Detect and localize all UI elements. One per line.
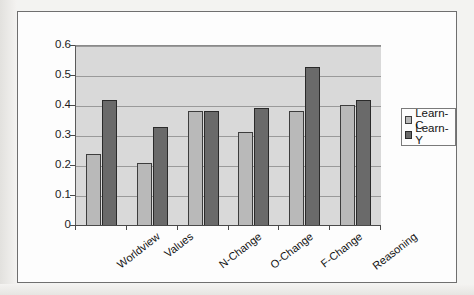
- bar-group: [86, 46, 117, 226]
- y-axis-tick-mark: [70, 135, 75, 136]
- bar-learn-c-f-change: [289, 111, 304, 227]
- gridline: [76, 196, 381, 197]
- y-axis-tick-label: 0.1: [37, 189, 71, 201]
- x-axis-tick-mark: [228, 226, 229, 230]
- gridline: [76, 106, 381, 107]
- y-axis-tick-mark: [70, 195, 75, 196]
- x-axis-tick-mark: [177, 226, 178, 230]
- x-axis-tick-label: O-Change: [268, 230, 315, 271]
- y-axis-tick-mark: [70, 165, 75, 166]
- bar-learn-c-n-change: [188, 111, 203, 227]
- y-axis-tick-label: 0.6: [37, 39, 71, 51]
- scan-edge-shading-left: [0, 0, 17, 295]
- legend-label: Learn-Y: [415, 123, 451, 146]
- bar-learn-y-worldview: [102, 100, 117, 226]
- x-axis-tick-label: Worldview: [115, 230, 162, 271]
- gridline: [76, 46, 381, 47]
- y-axis-tick-label: 0: [37, 219, 71, 231]
- x-axis-tick-label: Values: [162, 230, 195, 260]
- y-axis-tick-mark: [70, 75, 75, 76]
- gridline: [76, 76, 381, 77]
- y-axis: 00.10.20.30.40.50.6: [31, 12, 71, 262]
- bar-group: [238, 46, 269, 226]
- x-axis-tick-mark: [329, 226, 330, 230]
- bar-learn-y-f-change: [305, 67, 320, 226]
- bar-learn-y-reasoning: [356, 100, 371, 226]
- gridline: [76, 136, 381, 137]
- x-axis-tick-mark: [126, 226, 127, 230]
- y-axis-tick-mark: [70, 45, 75, 46]
- chart-figure: 00.10.20.30.40.50.6 WorldviewValuesN-Cha…: [17, 11, 457, 283]
- gridline: [76, 166, 381, 167]
- legend-swatch-icon: [405, 131, 412, 139]
- y-axis-tick-label: 0.4: [37, 99, 71, 111]
- x-axis-tick-label: F-Change: [318, 230, 364, 270]
- bar-group: [137, 46, 168, 226]
- bar-learn-y-n-change: [204, 111, 219, 227]
- bar-learn-y-o-change: [254, 108, 269, 227]
- y-axis-tick-label: 0.5: [37, 69, 71, 81]
- x-axis-tick-mark: [75, 226, 76, 230]
- y-axis-tick-mark: [70, 105, 75, 106]
- legend-swatch-icon: [405, 116, 412, 124]
- bar-learn-c-worldview: [86, 154, 101, 226]
- x-axis-tick-label: Reasoning: [370, 230, 419, 272]
- chart-legend: Learn-CLearn-Y: [401, 108, 456, 146]
- bar-learn-c-o-change: [238, 132, 253, 227]
- x-axis-tick-mark: [278, 226, 279, 230]
- y-axis-tick-label: 0.3: [37, 129, 71, 141]
- bar-learn-y-values: [153, 127, 168, 226]
- bar-group: [340, 46, 371, 226]
- x-axis-tick-label: N-Change: [217, 230, 264, 270]
- x-axis-tick-mark: [380, 226, 381, 230]
- x-axis: WorldviewValuesN-ChangeO-ChangeF-ChangeR…: [75, 226, 381, 295]
- bar-group: [289, 46, 320, 226]
- bar-group: [188, 46, 219, 226]
- y-axis-tick-label: 0.2: [37, 159, 71, 171]
- plot-area: [75, 45, 381, 226]
- bar-learn-c-values: [137, 163, 152, 226]
- bar-learn-c-reasoning: [340, 105, 355, 227]
- legend-item: Learn-Y: [405, 127, 451, 142]
